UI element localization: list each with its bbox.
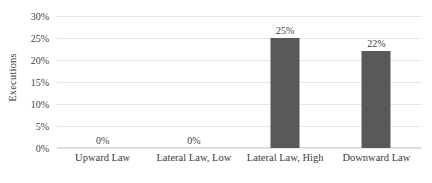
bar[interactable] — [362, 51, 391, 148]
x-axis-category-labels: Upward LawLateral Law, LowLateral Law, H… — [57, 152, 422, 172]
y-axis-tick-labels: 0%5%10%15%20%25%30% — [20, 0, 53, 183]
x-axis-category-label: Downward Law — [331, 152, 422, 172]
bar-value-label: 22% — [367, 38, 385, 49]
y-axis-tick-label: 30% — [20, 11, 53, 22]
bar-value-label: 25% — [276, 25, 294, 36]
y-axis-title-label: Executions — [7, 53, 18, 102]
y-axis-tick-label: 10% — [20, 99, 53, 110]
x-axis-category-label: Lateral Law, High — [240, 152, 331, 172]
gridline — [57, 148, 422, 149]
bar[interactable] — [271, 38, 300, 148]
y-axis-tick-label: 20% — [20, 55, 53, 66]
x-axis-category-label: Upward Law — [57, 152, 148, 172]
bar-chart: Executions 0%5%10%15%20%25%30% 0%0%25%22… — [0, 0, 432, 183]
y-axis-tick-label: 25% — [20, 33, 53, 44]
bars-layer: 0%0%25%22% — [57, 16, 422, 148]
bar-slot: 25% — [240, 16, 331, 148]
bar-slot: 0% — [148, 16, 239, 148]
y-axis-tick-label: 15% — [20, 77, 53, 88]
y-axis-tick-label: 5% — [20, 121, 53, 132]
bar-slot: 0% — [57, 16, 148, 148]
bar-slot: 22% — [331, 16, 422, 148]
bar-value-label: 0% — [96, 135, 109, 146]
y-axis-tick-label: 0% — [20, 143, 53, 154]
x-axis-category-label: Lateral Law, Low — [148, 152, 239, 172]
bar-value-label: 0% — [187, 135, 200, 146]
